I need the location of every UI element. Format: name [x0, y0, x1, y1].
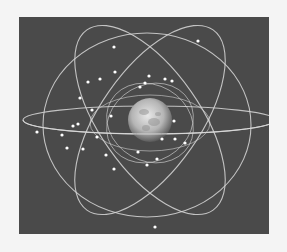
satellite-dot: [35, 130, 38, 133]
satellite-dot: [90, 108, 93, 111]
satellite-dot: [104, 153, 107, 156]
satellite-dot: [172, 119, 175, 122]
satellite-dot: [155, 157, 158, 160]
satellite-dot: [98, 77, 101, 80]
satellite-dot: [112, 167, 115, 170]
satellite-dot: [81, 147, 84, 150]
satellite-dot: [173, 137, 176, 140]
satellite-dot: [170, 79, 173, 82]
satellite-dot: [71, 124, 74, 127]
satellite-dot: [196, 39, 199, 42]
continent-shape: [155, 112, 161, 116]
satellite-dot: [76, 122, 79, 125]
satellite-dot: [86, 80, 89, 83]
continent-shape: [148, 118, 160, 126]
satellite-dot: [65, 146, 68, 149]
satellite-dot: [78, 96, 81, 99]
satellite-dot: [153, 225, 156, 228]
satellite-dot: [160, 137, 163, 140]
satellite-dot: [163, 77, 166, 80]
satellite-dot: [136, 150, 139, 153]
satellite-dot: [112, 45, 115, 48]
orbit-diagram: [19, 17, 269, 234]
satellite-dot: [145, 163, 148, 166]
satellite-dot: [60, 133, 63, 136]
satellite-dot: [95, 135, 98, 138]
continent-shape: [139, 109, 149, 115]
continent-shape: [142, 125, 150, 131]
satellite-dot: [183, 141, 186, 144]
satellite-dot: [109, 114, 112, 117]
satellite-dot: [147, 74, 150, 77]
satellite-dot: [138, 85, 141, 88]
satellite-dot: [143, 81, 146, 84]
satellite-constellation-image: [19, 17, 269, 234]
satellite-dot: [113, 70, 116, 73]
